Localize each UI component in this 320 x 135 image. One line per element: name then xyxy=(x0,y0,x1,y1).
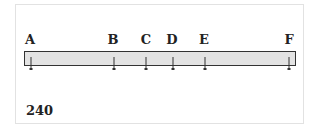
tick-mark-e xyxy=(204,57,207,70)
tick-mark-a xyxy=(30,57,33,70)
tick-mark-f xyxy=(288,57,291,70)
tick-mark-b xyxy=(113,57,116,70)
caption-value: 240 xyxy=(26,103,53,118)
tick-mark-d xyxy=(172,57,175,70)
point-label-b: B xyxy=(108,32,119,47)
point-label-f: F xyxy=(284,32,293,47)
point-label-a: A xyxy=(25,32,35,47)
point-label-e: E xyxy=(199,32,209,47)
point-label-d: D xyxy=(166,32,177,47)
point-label-c: C xyxy=(141,32,151,47)
tick-mark-c xyxy=(145,57,148,70)
segment-bar xyxy=(24,51,296,66)
